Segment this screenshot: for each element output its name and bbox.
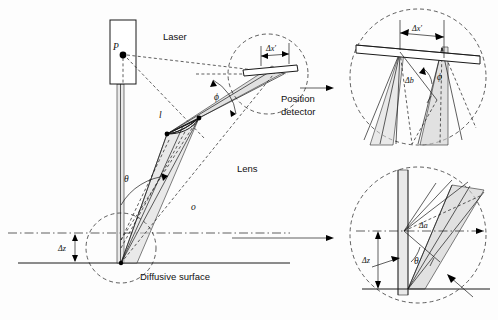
laser-label: Laser bbox=[163, 31, 187, 42]
detail-top-cone-left bbox=[370, 52, 404, 145]
delta-b-label: Δb bbox=[404, 76, 414, 85]
optical-diagram: θ ϕ Δx′ Position detector Laser P l o Le… bbox=[0, 0, 498, 320]
detail-bottom-pointer-1 bbox=[372, 256, 400, 267]
dxp-arrow-right bbox=[282, 51, 289, 57]
position-detector-label-line1: Position bbox=[281, 93, 315, 104]
displaced-cone-ray-3 bbox=[121, 130, 186, 248]
point-p-marker bbox=[120, 52, 127, 59]
detail-bottom-ref-arrow bbox=[476, 228, 484, 234]
detail-bottom-right: Δa Δz θ bbox=[350, 167, 490, 303]
lens-to-detector-ray-a bbox=[167, 68, 276, 134]
detail-bottom-cone bbox=[408, 185, 484, 289]
delta-x-prime-label: Δx′ bbox=[265, 44, 276, 53]
detail-top-dxp-arrow-l bbox=[400, 29, 409, 36]
phi-label: ϕ bbox=[214, 92, 219, 102]
detail-bottom-dz-arrow-bot bbox=[375, 281, 381, 289]
detail-bottom-theta-label: θ bbox=[414, 256, 419, 266]
detail-top-dxp-label: Δx′ bbox=[411, 24, 422, 33]
distance-l-label: l bbox=[159, 110, 162, 120]
phi-arrow-head-top bbox=[210, 80, 217, 87]
figure-canvas: θ ϕ Δx′ Position detector Laser P l o Le… bbox=[0, 0, 498, 320]
delta-z-dimension-main: Δz bbox=[57, 234, 78, 262]
detail-bottom-ray-2 bbox=[408, 186, 470, 289]
detail-bottom-pointer-2 bbox=[447, 274, 473, 297]
detail-bottom-beam-column bbox=[398, 170, 408, 295]
distance-o-label: o bbox=[191, 202, 196, 212]
detail-top-phi-arc bbox=[424, 69, 432, 84]
detail-bottom-dz-arrow-top bbox=[375, 231, 381, 239]
detail-bottom-dz-label: Δz bbox=[361, 256, 371, 265]
cone-ray-1 bbox=[121, 126, 183, 263]
lens-to-detector-ray-b bbox=[199, 74, 284, 118]
detail-top-right: ϕ Δx′ Δb bbox=[350, 9, 486, 145]
theta-label: θ bbox=[124, 174, 129, 184]
callout-arrow-top bbox=[300, 85, 334, 91]
delta-z-label-main: Δz bbox=[57, 244, 67, 253]
point-p-label: P bbox=[112, 42, 119, 52]
surface-spot-marker bbox=[119, 261, 123, 265]
diffusive-surface-label: Diffusive surface bbox=[140, 271, 210, 282]
detail-top-phi-arrow bbox=[419, 67, 426, 75]
detail-top-dxp-arrow-r bbox=[435, 33, 444, 40]
dxp-arrow-left bbox=[261, 53, 268, 59]
delta-a-label: Δa bbox=[418, 221, 428, 230]
lens-label: Lens bbox=[237, 163, 258, 174]
dz-arrow-top bbox=[72, 234, 78, 241]
callout-arrow-bottom bbox=[232, 235, 334, 241]
phi-arrow-head-bottom bbox=[230, 110, 236, 117]
dz-arrow-bottom bbox=[72, 255, 78, 262]
position-detector-label-line2: detector bbox=[281, 106, 315, 117]
detail-top-phi-label: ϕ bbox=[437, 72, 442, 82]
